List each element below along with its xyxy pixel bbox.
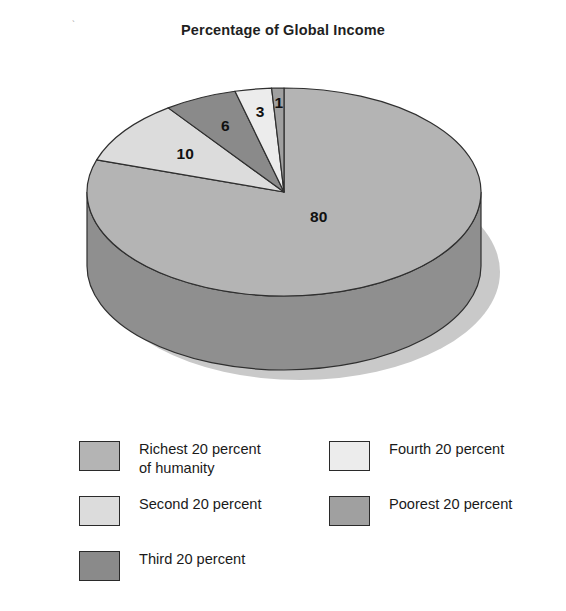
chart-page: ` Percentage of Global Income 8010631 Ri… [0, 0, 566, 611]
legend-item-poorest[interactable]: Poorest 20 percent [329, 495, 512, 526]
legend-item-fourth-label: Fourth 20 percent [389, 440, 504, 459]
legend-item-third-swatch [79, 551, 120, 581]
pie-top-faces [87, 88, 481, 296]
pie-label-poorest: 1 [274, 94, 283, 111]
legend-item-third[interactable]: Third 20 percent [79, 550, 245, 581]
legend-item-richest-label: Richest 20 percent of humanity [139, 440, 261, 477]
legend-item-fourth-swatch [329, 441, 370, 471]
legend-item-second-swatch [79, 496, 120, 526]
pie-label-second: 10 [177, 145, 194, 162]
legend-item-second-label: Second 20 percent [139, 495, 262, 514]
pie-label-fourth: 3 [256, 103, 265, 120]
pie-label-third: 6 [221, 117, 230, 134]
chart-legend: Richest 20 percent of humanitySecond 20 … [0, 430, 566, 611]
pie-chart: 8010631 [0, 0, 566, 420]
pie-label-richest: 80 [310, 208, 327, 225]
legend-item-richest[interactable]: Richest 20 percent of humanity [79, 440, 261, 477]
legend-item-fourth[interactable]: Fourth 20 percent [329, 440, 504, 471]
legend-item-poorest-label: Poorest 20 percent [389, 495, 512, 514]
legend-item-poorest-swatch [329, 496, 370, 526]
legend-item-second[interactable]: Second 20 percent [79, 495, 262, 526]
pie-chart-svg: 8010631 [0, 0, 566, 420]
legend-item-richest-swatch [79, 441, 120, 471]
legend-item-third-label: Third 20 percent [139, 550, 245, 569]
